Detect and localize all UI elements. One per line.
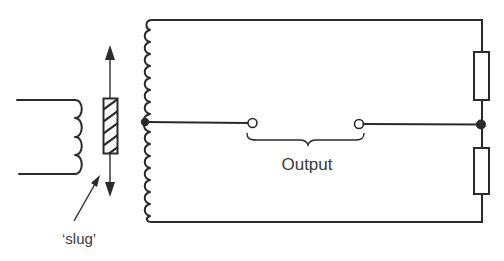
output-terminal-right (355, 120, 364, 129)
resistor-junction (476, 120, 486, 130)
arrow-up-icon (105, 45, 115, 60)
pointer-arrowhead-icon (91, 175, 100, 187)
slug-pointer (74, 175, 100, 221)
secondary-coil (144, 20, 482, 222)
resistor-top (474, 52, 489, 100)
output-label: Output (281, 155, 332, 174)
centre-tap-lead (145, 122, 248, 123)
junction-lead (364, 124, 482, 125)
output-terminal-left (248, 119, 257, 128)
circuit-diagram: ‘slug’ Output (0, 0, 504, 261)
resistor-bottom (474, 148, 489, 194)
arrow-down-icon (105, 182, 115, 197)
slug-label: ‘slug’ (62, 230, 96, 247)
output-brace (247, 133, 364, 145)
primary-coil (17, 100, 82, 174)
slug-core (100, 96, 122, 172)
